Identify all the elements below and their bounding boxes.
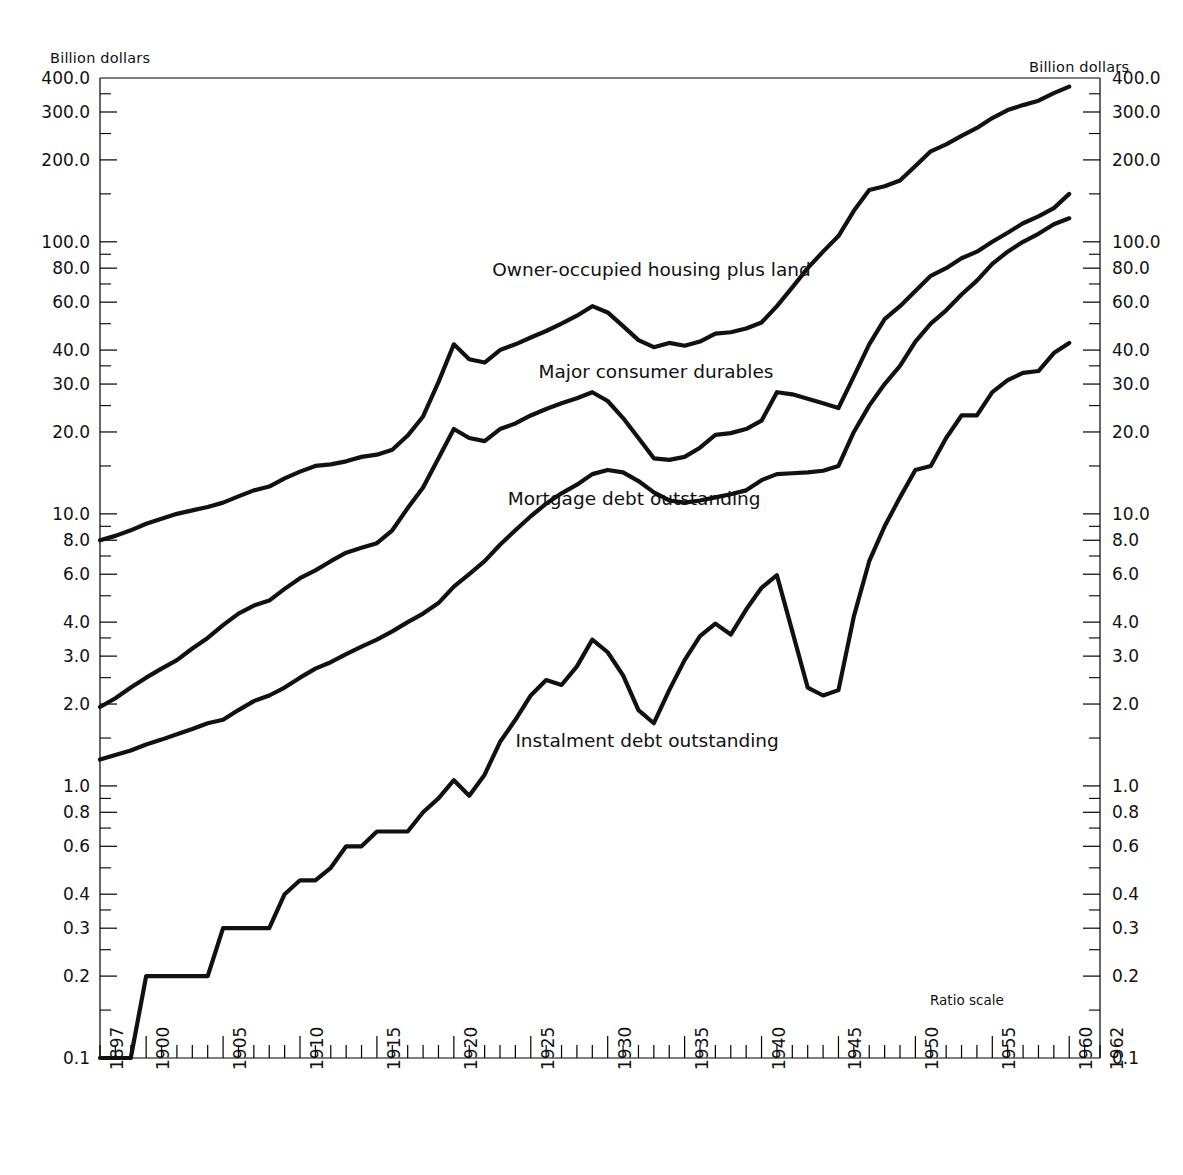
y-tick-label-left: 20.0 [28, 422, 90, 442]
x-tick-label: 1905 [230, 1027, 250, 1070]
y-tick-label-left: 300.0 [28, 102, 90, 122]
y-tick-label-right: 0.6 [1112, 836, 1139, 856]
y-tick-label-right: 8.0 [1112, 530, 1139, 550]
y-tick-label-left: 10.0 [28, 504, 90, 524]
y-tick-label-right: 400.0 [1112, 68, 1161, 88]
x-tick-label: 1950 [922, 1027, 942, 1070]
y-tick-label-left: 3.0 [28, 646, 90, 666]
y-tick-label-left: 0.4 [28, 884, 90, 904]
y-tick-label-left: 0.1 [28, 1048, 90, 1068]
series-curves [100, 87, 1069, 1058]
y-tick-label-right: 0.3 [1112, 918, 1139, 938]
y-tick-label-left: 0.3 [28, 918, 90, 938]
y-tick-label-right: 30.0 [1112, 374, 1150, 394]
y-tick-label-left: 0.2 [28, 966, 90, 986]
y-tick-label-left: 8.0 [28, 530, 90, 550]
y-tick-label-right: 1.0 [1112, 776, 1139, 796]
series-label: Major consumer durables [538, 361, 773, 382]
y-tick-label-right: 0.4 [1112, 884, 1139, 904]
y-tick-label-left: 60.0 [28, 292, 90, 312]
axis-frame [100, 78, 1100, 1058]
series-label: Instalment debt outstanding [515, 730, 778, 751]
x-tick-label: 1955 [999, 1027, 1019, 1070]
y-tick-label-left: 400.0 [28, 68, 90, 88]
axis-ticks [100, 94, 1100, 1058]
x-tick-label: 1897 [107, 1027, 127, 1070]
left-axis-unit-label: Billion dollars [50, 50, 150, 66]
y-tick-label-right: 4.0 [1112, 612, 1139, 632]
series-line-3 [100, 343, 1069, 1058]
x-tick-label: 1935 [692, 1027, 712, 1070]
ratio-scale-note: Ratio scale [930, 992, 1004, 1008]
y-tick-label-right: 3.0 [1112, 646, 1139, 666]
x-tick-label: 1940 [769, 1027, 789, 1070]
y-tick-label-left: 80.0 [28, 258, 90, 278]
plot-area [0, 0, 1183, 1175]
x-tick-label: 1930 [615, 1027, 635, 1070]
y-tick-label-right: 100.0 [1112, 232, 1161, 252]
series-label: Mortgage debt outstanding [508, 488, 761, 509]
y-tick-label-right: 300.0 [1112, 102, 1161, 122]
y-tick-label-left: 30.0 [28, 374, 90, 394]
y-tick-label-right: 20.0 [1112, 422, 1150, 442]
y-tick-label-left: 100.0 [28, 232, 90, 252]
y-tick-label-right: 0.8 [1112, 802, 1139, 822]
y-tick-label-right: 200.0 [1112, 150, 1161, 170]
y-tick-label-right: 2.0 [1112, 694, 1139, 714]
y-tick-label-left: 40.0 [28, 340, 90, 360]
x-tick-label: 1925 [538, 1027, 558, 1070]
series-line-0 [100, 87, 1069, 541]
y-tick-label-left: 200.0 [28, 150, 90, 170]
y-tick-label-left: 4.0 [28, 612, 90, 632]
x-tick-label: 1910 [307, 1027, 327, 1070]
y-tick-label-right: 80.0 [1112, 258, 1150, 278]
y-tick-label-right: 0.2 [1112, 966, 1139, 986]
y-tick-label-left: 0.6 [28, 836, 90, 856]
x-tick-label: 1920 [461, 1027, 481, 1070]
y-tick-label-right: 40.0 [1112, 340, 1150, 360]
x-tick-label: 1960 [1076, 1027, 1096, 1070]
y-tick-label-right: 10.0 [1112, 504, 1150, 524]
y-tick-label-left: 0.8 [28, 802, 90, 822]
x-tick-label: 1900 [153, 1027, 173, 1070]
series-label: Owner-occupied housing plus land [492, 259, 810, 280]
y-tick-label-left: 1.0 [28, 776, 90, 796]
x-tick-label: 1962 [1107, 1027, 1127, 1070]
y-tick-label-left: 6.0 [28, 564, 90, 584]
x-tick-label: 1945 [845, 1027, 865, 1070]
y-tick-label-left: 2.0 [28, 694, 90, 714]
y-tick-label-right: 60.0 [1112, 292, 1150, 312]
y-tick-label-right: 6.0 [1112, 564, 1139, 584]
x-tick-label: 1915 [384, 1027, 404, 1070]
chart-figure: Billion dollars Billion dollars 400.0400… [0, 0, 1183, 1175]
